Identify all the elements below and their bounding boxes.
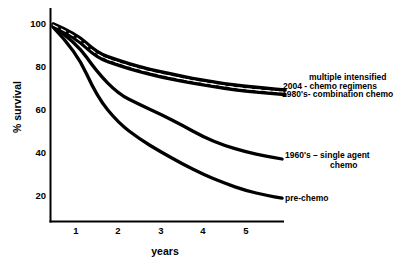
y-tick-100: 100 xyxy=(16,19,46,29)
curve-label-1960s-chemo: chemo xyxy=(330,161,357,170)
curve-label-pre-chemo: pre-chemo xyxy=(285,194,328,203)
survival-chart: % survival years 100 80 60 40 20 1 2 3 4… xyxy=(0,0,415,272)
x-axis-title: years xyxy=(151,245,178,257)
curve-label-1960s-single-agent: 1960's – single agent xyxy=(285,151,370,160)
y-tick-80: 80 xyxy=(16,62,46,72)
y-tick-60: 60 xyxy=(16,105,46,115)
x-tick-2: 2 xyxy=(108,226,128,236)
curve-label-1980s-combination-chemo: 1980's- combination chemo xyxy=(282,90,393,99)
curve-pre-chemo xyxy=(53,27,282,198)
x-tick-4: 4 xyxy=(193,226,213,236)
y-tick-20: 20 xyxy=(16,191,46,201)
curves-group xyxy=(53,24,285,198)
y-tick-40: 40 xyxy=(16,148,46,158)
x-tick-1: 1 xyxy=(66,226,86,236)
x-tick-3: 3 xyxy=(151,226,171,236)
x-tick-5: 5 xyxy=(236,226,256,236)
